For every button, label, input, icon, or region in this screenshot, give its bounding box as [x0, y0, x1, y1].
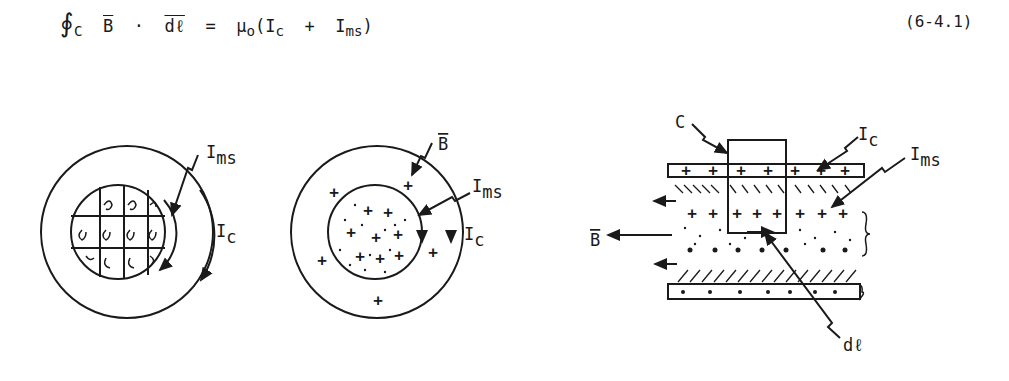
- svg-text:+: +: [838, 204, 848, 223]
- svg-text:+: +: [346, 223, 356, 242]
- svg-text:+: +: [363, 201, 373, 220]
- svg-text:+: +: [393, 225, 403, 244]
- svg-text:+: +: [752, 204, 762, 223]
- current-markers: +++++ ++++++++ +++++++ ++++++++: [317, 161, 850, 310]
- svg-text:+: +: [763, 161, 773, 180]
- svg-text:+: +: [817, 204, 827, 223]
- right-label-B: B: [590, 230, 600, 250]
- svg-text:+: +: [772, 204, 782, 223]
- svg-text:+: +: [355, 247, 365, 266]
- svg-text:+: +: [708, 161, 718, 180]
- svg-text:+: +: [371, 228, 381, 247]
- svg-text:+: +: [840, 161, 850, 180]
- svg-text:+: +: [375, 249, 385, 268]
- svg-text:+: +: [736, 161, 746, 180]
- left-label-Ic: Ic: [216, 221, 237, 247]
- right-label-dl: dℓ: [843, 335, 863, 355]
- middle-label-B: B: [438, 134, 448, 154]
- right-label-C: C: [675, 112, 685, 132]
- svg-text:+: +: [687, 204, 697, 223]
- figures: +++++ ++++++++ +++++++ ++++++++ Ims Ic B…: [0, 0, 1009, 381]
- right-label-Ic: Ic: [858, 124, 879, 150]
- figure-right-cross-section: [608, 124, 905, 338]
- svg-text:+: +: [373, 291, 383, 310]
- right-label-Ims: Ims: [910, 144, 941, 170]
- svg-text:+: +: [816, 161, 826, 180]
- svg-text:+: +: [394, 246, 404, 265]
- svg-text:+: +: [795, 204, 805, 223]
- svg-text:+: +: [317, 251, 327, 270]
- left-label-Ims: Ims: [206, 142, 237, 168]
- svg-text:+: +: [428, 243, 438, 262]
- middle-label-Ic: Ic: [464, 224, 485, 250]
- svg-text:+: +: [403, 176, 413, 195]
- svg-text:+: +: [681, 161, 691, 180]
- svg-text:+: +: [790, 161, 800, 180]
- svg-text:+: +: [732, 204, 742, 223]
- svg-text:+: +: [329, 183, 339, 202]
- svg-text:+: +: [383, 203, 393, 222]
- figure-left-solenoid-magnetization: [41, 146, 214, 318]
- middle-label-Ims: Ims: [472, 176, 503, 202]
- svg-text:+: +: [708, 204, 718, 223]
